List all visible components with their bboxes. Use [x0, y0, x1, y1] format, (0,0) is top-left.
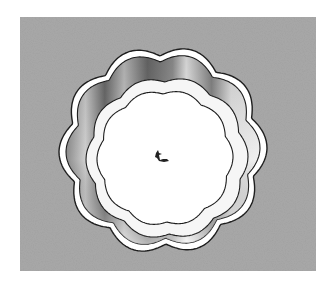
gray-background-panel: [20, 17, 316, 271]
pan-base: [97, 92, 233, 225]
tart-pan-illustration: [20, 17, 316, 271]
